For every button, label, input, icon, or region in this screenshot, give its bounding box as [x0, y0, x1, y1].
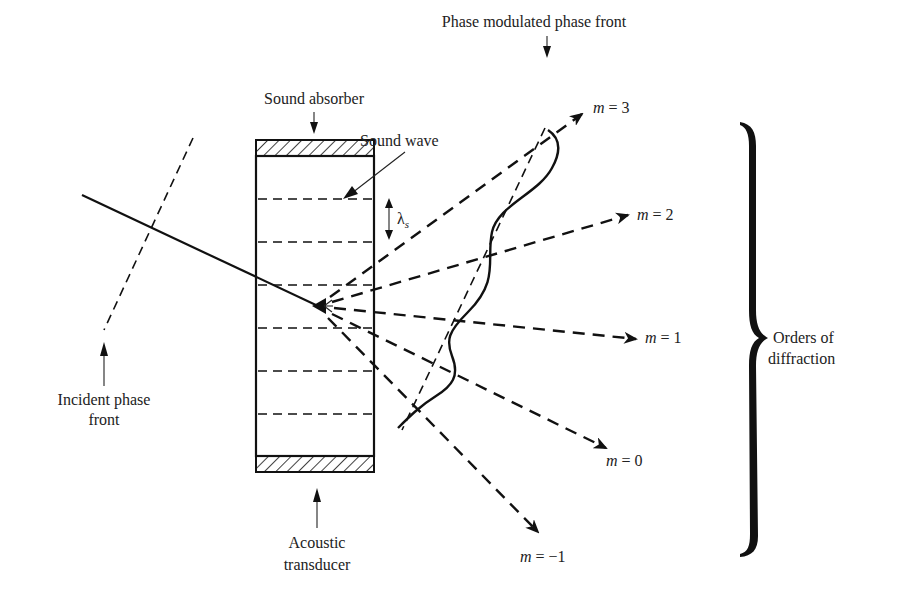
acousto-optic-diagram: Incident phase front Sound absorber Soun… — [0, 0, 898, 597]
orders-label-line1: Orders of — [773, 329, 835, 346]
order-label-m3: m = 3 — [593, 99, 630, 116]
transducer-pointer — [313, 488, 321, 528]
sound-absorber-block — [256, 140, 374, 156]
order-beam-m2 — [332, 215, 628, 302]
order-label-m-1: m = −1 — [520, 548, 566, 565]
order-beam-m1 — [334, 308, 636, 339]
transducer-label-line1: Acoustic — [289, 534, 346, 551]
incident-front-label-line1: Incident phase — [58, 391, 151, 409]
incident-front-pointer — [100, 342, 108, 386]
sound-wave-label: Sound wave — [360, 132, 439, 149]
order-beam-m-1 — [328, 318, 538, 532]
orders-label-line2: diffraction — [768, 350, 835, 367]
sound-absorber-label: Sound absorber — [264, 90, 365, 107]
order-label-m0: m = 0 — [606, 452, 643, 469]
phase-front-reference — [402, 128, 545, 430]
incident-beam — [82, 195, 318, 306]
order-label-m2: m = 2 — [637, 206, 674, 223]
wavelength-indicator — [385, 198, 393, 240]
scattering-point — [312, 298, 333, 314]
sound-absorber-pointer — [310, 112, 318, 134]
transducer-label-line2: transducer — [284, 556, 351, 573]
order-label-m1: m = 1 — [645, 329, 682, 346]
phase-modulated-wave — [398, 130, 558, 428]
phase-front-pointer — [543, 36, 551, 58]
incident-front-label-line2: front — [88, 411, 120, 428]
wavelength-label: λs — [397, 210, 409, 230]
transducer-block — [256, 456, 374, 472]
incident-phase-front-line — [104, 138, 193, 330]
orders-brace — [740, 122, 768, 557]
phase-modulated-front-label: Phase modulated phase front — [442, 13, 627, 31]
